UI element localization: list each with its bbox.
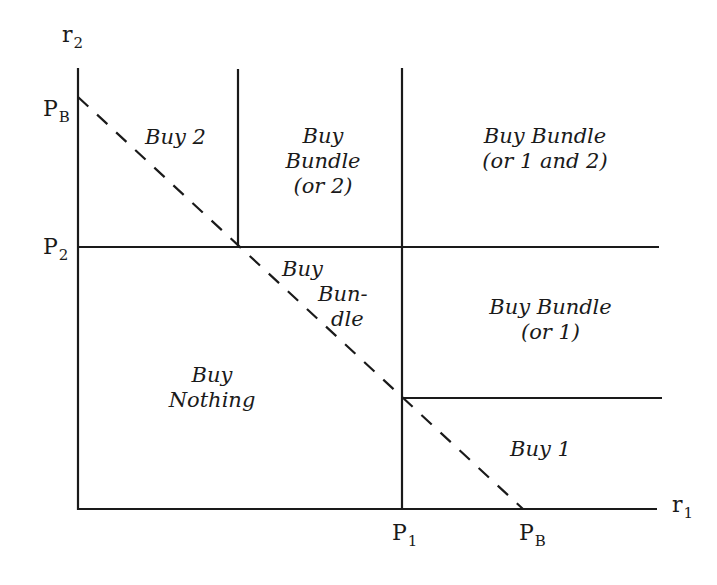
region-line: Buy Bundle [470, 124, 620, 149]
region-buy-bundle-middle: Buy Bun- dle [282, 257, 392, 332]
y-tick-pb: PB [43, 98, 70, 120]
region-line: Buy Bundle [483, 295, 618, 320]
y-tick-p2: P2 [43, 236, 68, 258]
y-axis-label-main: r [62, 22, 73, 47]
x-tick-p1-sub: 1 [408, 532, 418, 550]
region-line: Buy [157, 363, 267, 388]
x-axis-label: r1 [672, 494, 693, 516]
y-axis-label-sub: 2 [74, 34, 84, 52]
region-line: (or 1 and 2) [470, 149, 620, 174]
region-buy-1: Buy 1 [510, 437, 571, 462]
region-buy-bundle-or-1: Buy Bundle (or 1) [483, 295, 618, 345]
region-line: Bundle [278, 149, 368, 174]
region-buy-1-line: Buy 1 [510, 437, 571, 462]
y-tick-p2-sub: 2 [59, 246, 69, 264]
x-tick-pb-sub: B [535, 532, 546, 550]
y-tick-pb-sub: B [59, 108, 70, 126]
region-line: Buy [278, 124, 368, 149]
region-line: Nothing [157, 388, 267, 413]
region-line: Buy [282, 257, 392, 282]
x-tick-p1-main: P [392, 520, 407, 545]
region-line: (or 2) [278, 174, 368, 199]
x-tick-pb: PB [519, 522, 546, 544]
region-line: (or 1) [483, 320, 618, 345]
y-tick-pb-main: P [43, 96, 58, 121]
region-buy-bundle-or-2: Buy Bundle (or 2) [278, 124, 368, 199]
region-buy-2: Buy 2 [145, 125, 206, 150]
region-line: Bun- [282, 282, 392, 307]
x-tick-p1: P1 [392, 522, 417, 544]
region-buy-2-line: Buy 2 [145, 125, 206, 150]
region-buy-bundle-or-1-and-2: Buy Bundle (or 1 and 2) [470, 124, 620, 174]
x-tick-pb-main: P [519, 520, 534, 545]
x-axis-label-main: r [672, 492, 683, 517]
x-axis-label-sub: 1 [684, 504, 694, 522]
y-axis-label: r2 [62, 24, 83, 46]
region-buy-nothing: Buy Nothing [157, 363, 267, 413]
y-tick-p2-main: P [43, 234, 58, 259]
region-line: dle [282, 307, 392, 332]
